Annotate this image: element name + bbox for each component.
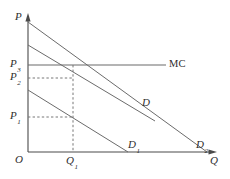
origin-label-text: O [15,153,23,165]
y-axis-arrow-icon [25,13,30,22]
demand-curve-d2 [28,22,207,152]
x-axis-title: Q [210,155,218,166]
economics-demand-chart: P Q O P3 P2 P1 Q1 MC D D1 D2 [0,0,230,179]
curve-label-d1-base: D [128,138,136,150]
curve-label-d-base: D [142,96,150,108]
curve-label-d2-sub: 2 [204,147,208,155]
price-tick-p2-sub: 2 [17,79,21,87]
origin-label: O [15,154,23,165]
curve-label-d2-base: D [196,138,204,150]
price-tick-p1-sub: 1 [17,118,21,126]
curve-label-d: D [142,97,150,111]
y-axis-title: P [15,11,22,22]
demand-curve-d1 [28,90,128,152]
curve-label-mc-text: MC [169,58,186,69]
curve-label-d1: D1 [128,139,139,153]
price-tick-p3-base: P [10,57,17,69]
demand-curve-d [28,45,155,121]
price-tick-p1-base: P [10,109,17,121]
curve-label-mc: MC [169,59,186,70]
y-axis-title-text: P [15,10,22,22]
price-tick-p1: P1 [10,110,20,124]
curve-label-d2: D2 [196,139,207,153]
quantity-tick-q1: Q1 [66,155,77,169]
price-tick-p2: P2 [10,71,20,85]
price-tick-p2-base: P [10,70,17,82]
x-axis-title-text: Q [210,154,218,166]
quantity-tick-q1-base: Q [66,154,74,166]
quantity-tick-q1-sub: 1 [74,163,78,171]
curve-label-d1-sub: 1 [136,147,140,155]
